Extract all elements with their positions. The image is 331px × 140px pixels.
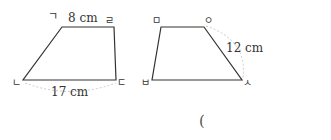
diagram-canvas: ㄱ 8 cm ㄹ ㄷ ㄴ 17 cm ㅁ ㅇ 12 cm ㅅ ㅂ [0,0,331,140]
trapezoid-1-shape [23,27,116,80]
vertex-label-ieung: ㅇ [204,15,213,26]
side-length-label: 12 cm [226,41,264,55]
answer-parenthesis: ( [199,112,205,130]
vertex-label-mieum: ㅁ [152,15,161,26]
vertex-label-bieup: ㅂ [141,77,150,88]
vertex-label-nieun: ㄴ [12,77,21,88]
vertex-label-siot: ㅅ [243,77,252,88]
vertex-label-rieul: ㄹ [105,15,114,26]
trapezoid-2: ㅁ ㅇ 12 cm ㅅ ㅂ [141,15,264,88]
vertex-label-digeut: ㄷ [117,77,126,88]
top-length-label: 8 cm [68,11,98,25]
vertex-label-giyeok: ㄱ [48,10,58,23]
bottom-length-label: 17 cm [51,85,89,99]
trapezoid-1: ㄱ 8 cm ㄹ ㄷ ㄴ 17 cm [12,10,126,99]
